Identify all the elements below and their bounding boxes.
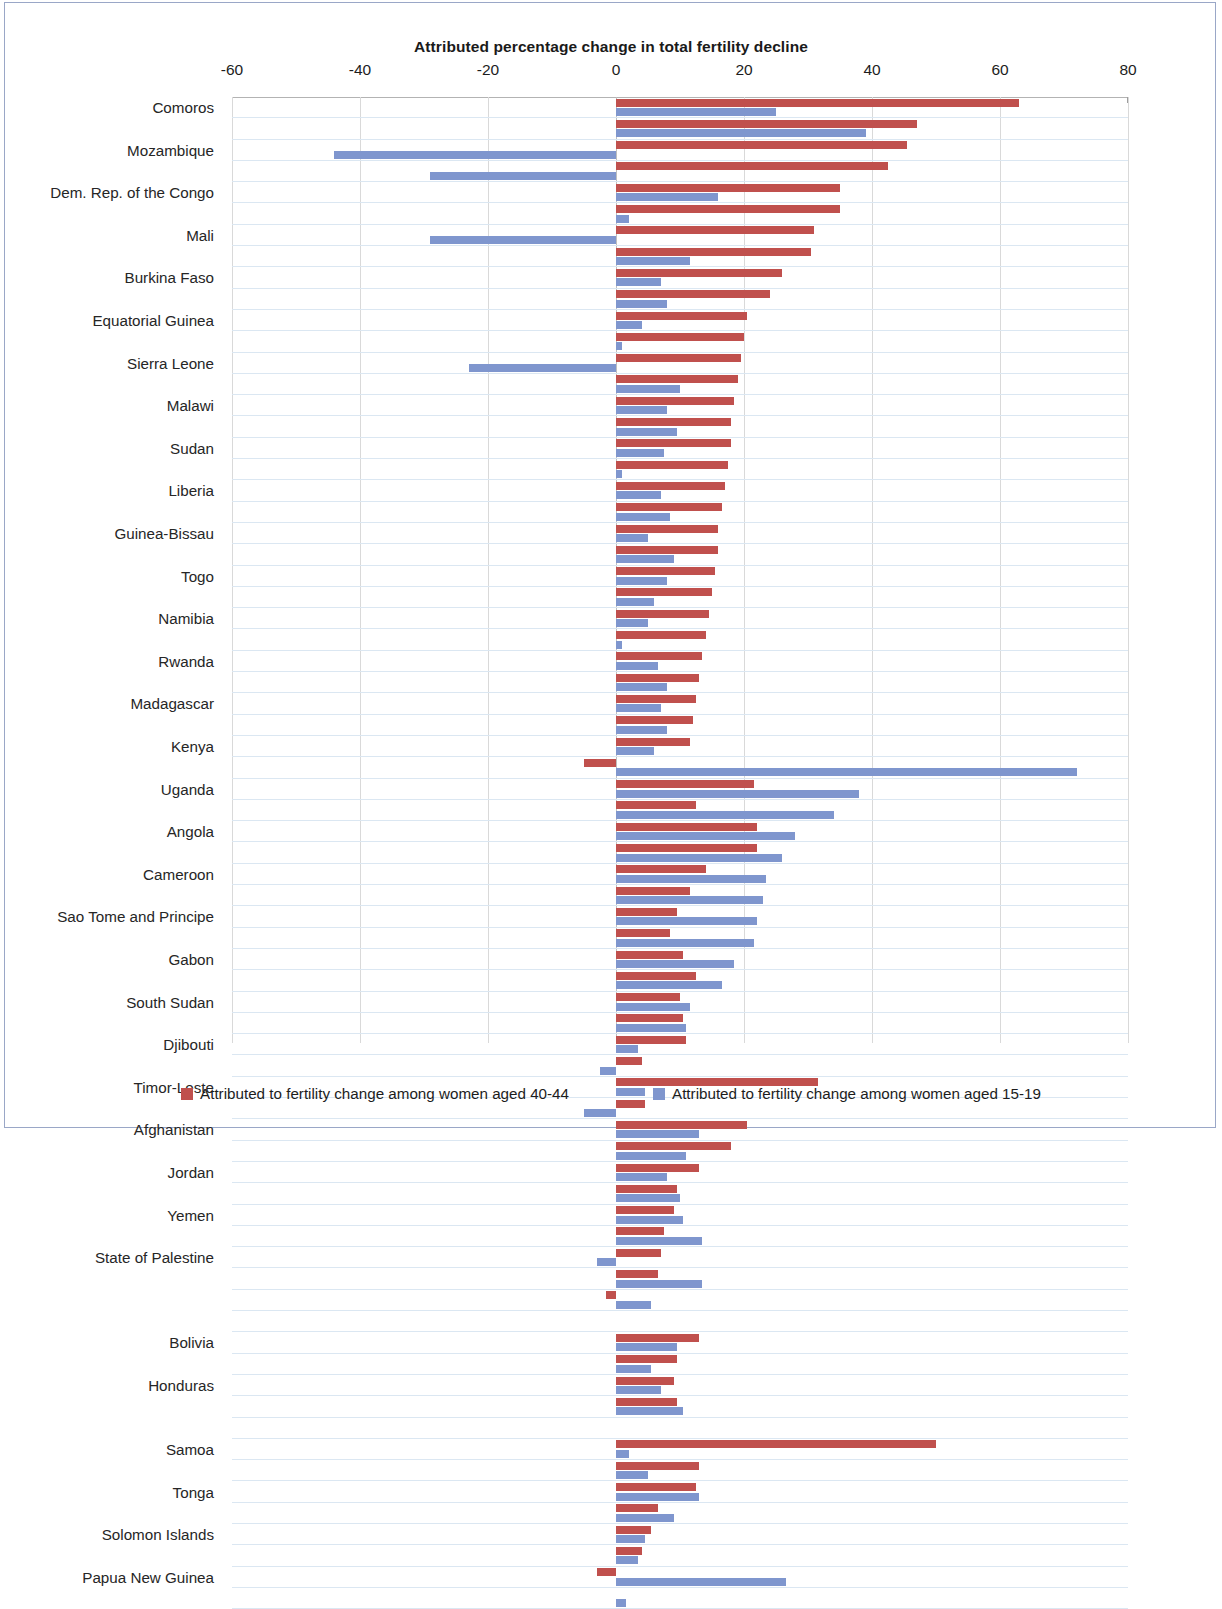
- bar-aged-40-44: [616, 716, 693, 724]
- chart-row: [232, 523, 1128, 544]
- category-label: Rwanda: [158, 654, 214, 669]
- chart-row: [232, 374, 1128, 395]
- bar-aged-15-19: [334, 151, 616, 159]
- bar-aged-40-44: [616, 972, 696, 980]
- category-label: Papua New Guinea: [82, 1570, 214, 1585]
- chart-row: [232, 544, 1128, 565]
- chart-row: [232, 1524, 1128, 1545]
- category-label: Togo: [181, 569, 214, 584]
- chart-row: [232, 1588, 1128, 1609]
- category-label: Dem. Rep. of the Congo: [50, 185, 214, 200]
- bar-aged-15-19: [584, 1109, 616, 1117]
- bar-aged-15-19: [616, 726, 667, 734]
- bar-aged-15-19: [616, 428, 677, 436]
- bar-aged-40-44: [616, 120, 917, 128]
- bar-aged-15-19: [616, 193, 718, 201]
- category-label: South Sudan: [126, 995, 214, 1010]
- category-label: Solomon Islands: [102, 1527, 214, 1542]
- bar-aged-40-44: [616, 951, 683, 959]
- bar-aged-15-19: [616, 1493, 699, 1501]
- bar-aged-15-19: [616, 1556, 638, 1564]
- chart-row: [232, 843, 1128, 864]
- bar-aged-15-19: [616, 747, 654, 755]
- bar-aged-40-44: [616, 546, 718, 554]
- bar-aged-15-19: [616, 1471, 648, 1479]
- bar-aged-40-44: [616, 312, 747, 320]
- bar-aged-40-44: [616, 184, 840, 192]
- x-tick-label: 80: [1119, 61, 1136, 79]
- chart-row: [232, 1034, 1128, 1055]
- chart-row: [232, 1269, 1128, 1290]
- x-tick-label: 60: [991, 61, 1008, 79]
- category-label: Liberia: [168, 483, 214, 498]
- bar-aged-15-19: [430, 172, 616, 180]
- bar-aged-15-19: [616, 513, 670, 521]
- bar-aged-40-44: [616, 1249, 661, 1257]
- legend-item[interactable]: Attributed to fertility change among wom…: [181, 1085, 569, 1102]
- x-tick-label: -60: [221, 61, 243, 79]
- category-label: Sudan: [170, 441, 214, 456]
- category-label: Samoa: [166, 1442, 214, 1457]
- chart-row: [232, 97, 1128, 118]
- chart-row: [232, 438, 1128, 459]
- chart-row: [232, 779, 1128, 800]
- x-tick-label: -40: [349, 61, 371, 79]
- bar-aged-40-44: [616, 844, 757, 852]
- bar-aged-40-44: [616, 887, 690, 895]
- bar-aged-40-44: [597, 1568, 616, 1576]
- bar-aged-15-19: [616, 491, 661, 499]
- bar-aged-40-44: [616, 1057, 642, 1065]
- chart-row: [232, 1056, 1128, 1077]
- chart-row: [232, 1567, 1128, 1588]
- bar-aged-15-19: [616, 598, 654, 606]
- gridline-80: [1128, 97, 1129, 1043]
- bar-aged-40-44: [616, 865, 706, 873]
- chart-row: [232, 1290, 1128, 1311]
- bar-aged-40-44: [616, 1504, 658, 1512]
- bar-aged-15-19: [616, 534, 648, 542]
- category-label: Sao Tome and Principe: [57, 909, 214, 924]
- bar-aged-40-44: [616, 652, 702, 660]
- bar-aged-40-44: [616, 1377, 674, 1385]
- bar-aged-40-44: [616, 290, 770, 298]
- chart-row: [232, 736, 1128, 757]
- bar-aged-15-19: [616, 406, 667, 414]
- chart-legend: Attributed to fertility change among wom…: [0, 1085, 1222, 1102]
- chart-row: [232, 949, 1128, 970]
- category-label: Sierra Leone: [127, 356, 214, 371]
- x-tick-label: 0: [612, 61, 621, 79]
- chart-row: [232, 459, 1128, 480]
- legend-item[interactable]: Attributed to fertility change among wom…: [653, 1085, 1041, 1102]
- bar-aged-40-44: [616, 908, 677, 916]
- bar-aged-40-44: [616, 610, 709, 618]
- category-axis-labels: ComorosMozambiqueDem. Rep. of the CongoM…: [0, 97, 222, 1043]
- chart-row: [232, 1439, 1128, 1460]
- bar-aged-40-44: [616, 461, 728, 469]
- bar-aged-40-44: [616, 226, 814, 234]
- chart-row: [232, 608, 1128, 629]
- bar-aged-15-19: [616, 683, 667, 691]
- chart-row: [232, 906, 1128, 927]
- bar-aged-40-44: [616, 1142, 731, 1150]
- chart-row: [232, 331, 1128, 352]
- chart-row: [232, 310, 1128, 331]
- bar-aged-40-44: [616, 1227, 664, 1235]
- chart-row: [232, 395, 1128, 416]
- bar-aged-15-19: [616, 981, 722, 989]
- bar-aged-15-19: [616, 704, 661, 712]
- x-tick-label: -20: [477, 61, 499, 79]
- category-label: Burkina Faso: [125, 270, 214, 285]
- bar-aged-40-44: [616, 1355, 677, 1363]
- bar-aged-15-19: [616, 619, 648, 627]
- bar-aged-15-19: [616, 811, 834, 819]
- bar-aged-40-44: [616, 439, 731, 447]
- chart-row: [232, 140, 1128, 161]
- category-label: Equatorial Guinea: [92, 313, 214, 328]
- chart-row: [232, 630, 1128, 651]
- chart-row: [232, 587, 1128, 608]
- bar-aged-40-44: [616, 588, 712, 596]
- bar-aged-40-44: [616, 1526, 651, 1534]
- bar-aged-15-19: [616, 1578, 786, 1586]
- category-label: Honduras: [148, 1378, 214, 1393]
- bar-aged-40-44: [616, 1270, 658, 1278]
